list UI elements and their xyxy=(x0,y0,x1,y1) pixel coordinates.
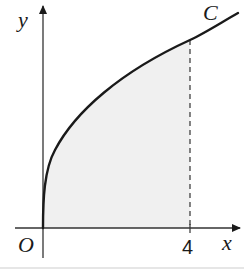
origin-label: O xyxy=(18,232,34,257)
curve-label: C xyxy=(203,0,218,25)
x-axis-label: x xyxy=(221,230,232,255)
y-axis-label: y xyxy=(16,7,28,32)
diagram-canvas: y C O 4 x xyxy=(0,0,244,271)
x-tick-label-4: 4 xyxy=(182,236,193,258)
